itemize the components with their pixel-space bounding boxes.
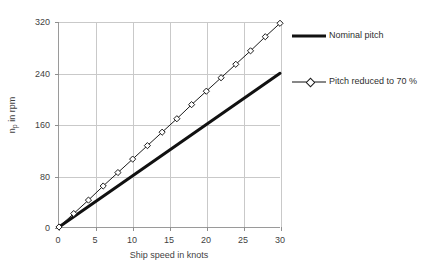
- x-axis-tick: [96, 227, 97, 231]
- y-tick-label: 0: [0, 223, 50, 233]
- y-axis-tick: [55, 228, 59, 229]
- y-tick-label: 320: [0, 17, 50, 27]
- legend-line-icon-nominal-pitch: [292, 30, 326, 41]
- data-point-marker: [174, 116, 180, 122]
- x-axis-title: Ship speed in knots: [58, 250, 280, 260]
- plot-top-border: [59, 22, 280, 23]
- grid-line-horizontal: [59, 177, 280, 178]
- y-axis-tick: [55, 177, 59, 178]
- y-tick-label: 160: [0, 120, 50, 130]
- y-tick-label: 80: [0, 172, 50, 182]
- x-axis-tick: [133, 227, 134, 231]
- x-axis-tick: [244, 227, 245, 231]
- y-axis-tick: [55, 74, 59, 75]
- data-point-marker: [189, 102, 195, 108]
- data-point-marker: [85, 197, 91, 203]
- x-tick-label: 0: [55, 235, 60, 245]
- x-tick-label: 20: [201, 235, 211, 245]
- data-point-marker: [247, 48, 253, 54]
- legend-line-marker-icon-pitch-reduced: [292, 76, 326, 87]
- x-tick-label: 15: [164, 235, 174, 245]
- x-tick-label: 30: [275, 235, 285, 245]
- x-tick-label: 10: [127, 235, 137, 245]
- chart-figure: np in rpm Ship speed in knots 0510152025…: [0, 0, 423, 271]
- data-point-marker: [159, 129, 165, 135]
- x-axis-tick: [170, 227, 171, 231]
- data-point-marker: [100, 183, 106, 189]
- y-axis-title: np in rpm: [7, 75, 17, 155]
- data-point-marker: [144, 143, 150, 149]
- y-axis-tick: [55, 22, 59, 23]
- plot-area: [58, 22, 280, 228]
- x-axis-tick: [281, 227, 282, 231]
- grid-line-horizontal: [59, 125, 280, 126]
- legend-entry-pitch-reduced: Pitch reduced to 70 %: [292, 76, 417, 87]
- y-tick-label: 240: [0, 69, 50, 79]
- grid-line-horizontal: [59, 74, 280, 75]
- data-point-marker: [115, 169, 121, 175]
- data-point-marker: [71, 210, 77, 216]
- legend-label-pitch-reduced: Pitch reduced to 70 %: [329, 76, 417, 87]
- x-axis-tick: [59, 227, 60, 231]
- data-point-marker: [218, 75, 224, 81]
- legend-label-nominal-pitch: Nominal pitch: [329, 30, 384, 41]
- plot-right-border: [281, 22, 282, 227]
- legend-entry-nominal-pitch: Nominal pitch: [292, 30, 384, 41]
- x-tick-label: 5: [92, 235, 97, 245]
- y-axis-tick: [55, 125, 59, 126]
- data-point-marker: [262, 34, 268, 40]
- x-tick-label: 25: [238, 235, 248, 245]
- diamond-marker-icon: [305, 78, 315, 88]
- x-axis-tick: [207, 227, 208, 231]
- data-point-marker: [233, 61, 239, 67]
